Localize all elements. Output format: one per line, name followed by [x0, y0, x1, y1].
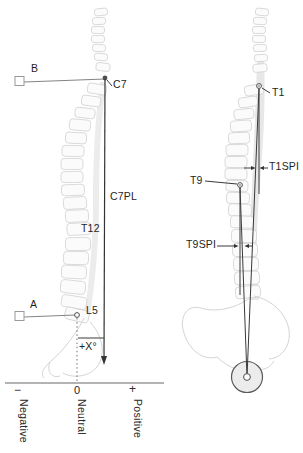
vertebra: [63, 196, 87, 209]
c7-label: C7: [113, 79, 127, 90]
t1-point-center-dot: [258, 85, 260, 87]
c7pl-label: C7PL: [110, 191, 137, 202]
vertebra: [253, 36, 266, 43]
femoral-head-center-marker: [244, 374, 251, 381]
vertebra: [225, 157, 247, 168]
t1spi-label: T1SPI: [269, 161, 299, 172]
axis-neutral-label: Neutral: [77, 399, 88, 435]
axis-minus-sign: −: [14, 384, 21, 396]
axis-positive-label: Positive: [133, 399, 144, 438]
vertebra: [81, 95, 101, 108]
t9spi-label: T9SPI: [186, 239, 216, 250]
vertebra: [61, 294, 88, 310]
left-spine-sketch: [60, 8, 110, 324]
vertebra: [65, 132, 87, 144]
b-label: B: [31, 63, 38, 74]
vertebra: [61, 184, 84, 196]
vertebra: [233, 257, 258, 270]
vertebra: [255, 8, 269, 16]
axis-zero-label: 0: [74, 385, 80, 396]
figure-artwork: [0, 0, 303, 453]
t9-label: T9: [190, 175, 203, 186]
t9-point-center-dot: [239, 184, 241, 186]
t12-label: T12: [81, 223, 100, 234]
vertebra: [234, 271, 260, 285]
vertebra: [238, 96, 258, 109]
angle-label: +X°: [79, 341, 97, 352]
vertebra: [60, 279, 86, 295]
vertebra: [226, 192, 249, 204]
vertebra: [253, 63, 268, 72]
down-arrowhead: [101, 356, 107, 365]
vertebra: [230, 120, 252, 132]
a-label: A: [30, 299, 37, 310]
ischium-outline: [49, 362, 60, 377]
vertebra: [230, 216, 253, 229]
b-reference-line: [24, 79, 105, 82]
c7-plumb-line: [104, 79, 105, 358]
iliac-crest-outline: [254, 296, 289, 359]
vertebra: [253, 44, 266, 51]
right-pelvis-sketch: [182, 296, 289, 370]
vertebra: [92, 36, 105, 43]
vertebra: [61, 171, 83, 182]
vertebra: [254, 54, 267, 62]
axis-negative-label: Negative: [19, 399, 30, 443]
vertebra: [62, 145, 84, 156]
l5-point: [75, 313, 80, 318]
vertebra: [65, 209, 89, 222]
axis-plus-sign: +: [129, 383, 136, 395]
vertebra: [94, 53, 108, 61]
vertebra: [96, 62, 111, 71]
right-spine-sketch: [225, 8, 269, 299]
vertebra: [94, 8, 108, 16]
b-square-marker: [15, 77, 24, 86]
vertebra: [65, 237, 90, 250]
vertebra: [61, 159, 83, 170]
t1-label: T1: [272, 87, 285, 98]
vertebra: [253, 27, 266, 34]
a-square-marker: [15, 312, 24, 321]
vertebra: [92, 17, 105, 25]
vertebra: [226, 144, 248, 155]
vertebra: [253, 17, 266, 25]
spine-parameters-figure: B C7 C7PL T12 A L5 +X° − 0 + Negative Ne…: [0, 0, 303, 453]
vertebra: [228, 132, 249, 144]
vertebra: [226, 180, 248, 192]
vertebra: [92, 44, 105, 52]
vertebra: [63, 251, 88, 264]
vertebra: [75, 107, 96, 119]
vertebra: [234, 108, 255, 120]
c7-label-connector: [107, 80, 112, 86]
vertebra: [92, 27, 105, 34]
pelvis-wing-outline: [182, 298, 252, 370]
vertebra: [61, 265, 87, 279]
vertebra: [69, 119, 91, 132]
l5-label: L5: [86, 305, 98, 316]
vertebra: [225, 168, 247, 179]
